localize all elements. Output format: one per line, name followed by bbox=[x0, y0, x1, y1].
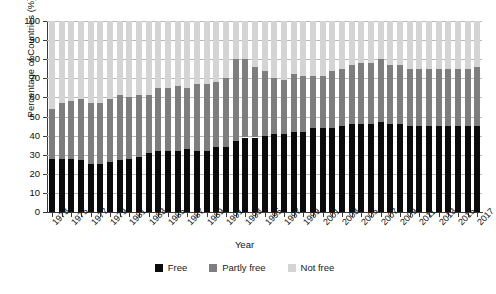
bar-segment-free bbox=[233, 141, 239, 212]
bar-1987[interactable] bbox=[184, 21, 190, 212]
bar-segment-not-free bbox=[310, 21, 316, 76]
bar-1998[interactable] bbox=[291, 21, 297, 212]
bar-1990[interactable] bbox=[213, 21, 219, 212]
bar-1991[interactable] bbox=[223, 21, 229, 212]
bar-segment-free bbox=[320, 128, 326, 212]
bar-segment-free bbox=[358, 124, 364, 212]
bar-segment-free bbox=[175, 151, 181, 212]
bar-segment-not-free bbox=[329, 21, 335, 71]
bar-segment-partly-free bbox=[107, 99, 113, 162]
legend-item-not-free[interactable]: Not free bbox=[288, 262, 335, 273]
bar-2014[interactable] bbox=[445, 21, 451, 212]
bar-1981[interactable] bbox=[126, 21, 132, 212]
bar-segment-free bbox=[445, 126, 451, 212]
bar-segment-partly-free bbox=[155, 88, 161, 151]
bar-1989[interactable] bbox=[204, 21, 210, 212]
bar-segment-not-free bbox=[97, 21, 103, 103]
bar-2015[interactable] bbox=[455, 21, 461, 212]
bar-1995[interactable] bbox=[262, 21, 268, 212]
bar-2009[interactable] bbox=[397, 21, 403, 212]
bar-1983[interactable] bbox=[146, 21, 152, 212]
bar-segment-free bbox=[184, 149, 190, 212]
bar-segment-free bbox=[407, 126, 413, 212]
bar-1993[interactable] bbox=[242, 21, 248, 212]
bar-1974[interactable] bbox=[59, 21, 65, 212]
bar-2001[interactable] bbox=[320, 21, 326, 212]
bar-segment-free bbox=[416, 126, 422, 212]
bar-1999[interactable] bbox=[300, 21, 306, 212]
bar-segment-partly-free bbox=[233, 59, 239, 141]
bar-2017[interactable] bbox=[474, 21, 480, 212]
bar-1982[interactable] bbox=[136, 21, 142, 212]
y-tick-label-50: 50 bbox=[14, 112, 40, 121]
bar-segment-partly-free bbox=[49, 109, 55, 159]
bar-1992[interactable] bbox=[233, 21, 239, 212]
bar-segment-partly-free bbox=[184, 88, 190, 149]
bar-1994[interactable] bbox=[252, 21, 258, 212]
bar-segment-free bbox=[136, 157, 142, 212]
bar-segment-free bbox=[397, 124, 403, 212]
legend-label: Partly free bbox=[222, 262, 265, 273]
bar-2007[interactable] bbox=[378, 21, 384, 212]
bar-2012[interactable] bbox=[426, 21, 432, 212]
bar-segment-not-free bbox=[165, 21, 171, 88]
bar-2008[interactable] bbox=[387, 21, 393, 212]
legend-item-partly-free[interactable]: Partly free bbox=[209, 262, 265, 273]
bar-series-group bbox=[47, 21, 482, 212]
bar-segment-partly-free bbox=[117, 95, 123, 160]
bar-2003[interactable] bbox=[339, 21, 345, 212]
bar-segment-partly-free bbox=[175, 86, 181, 151]
bar-1976[interactable] bbox=[78, 21, 84, 212]
bar-segment-not-free bbox=[455, 21, 461, 69]
bar-segment-partly-free bbox=[252, 67, 258, 138]
bar-1996[interactable] bbox=[271, 21, 277, 212]
bar-1988[interactable] bbox=[194, 21, 200, 212]
bar-segment-not-free bbox=[349, 21, 355, 65]
bar-segment-partly-free bbox=[59, 103, 65, 158]
legend-item-free[interactable]: Free bbox=[155, 262, 188, 273]
bar-segment-not-free bbox=[194, 21, 200, 84]
y-tick-label-100: 100 bbox=[14, 16, 40, 25]
bar-1997[interactable] bbox=[281, 21, 287, 212]
bar-2011[interactable] bbox=[416, 21, 422, 212]
bar-1986[interactable] bbox=[175, 21, 181, 212]
bar-segment-not-free bbox=[223, 21, 229, 78]
bar-segment-not-free bbox=[146, 21, 152, 95]
bar-segment-free bbox=[204, 151, 210, 212]
bar-1984[interactable] bbox=[155, 21, 161, 212]
bar-1985[interactable] bbox=[165, 21, 171, 212]
bar-2016[interactable] bbox=[465, 21, 471, 212]
bar-segment-partly-free bbox=[407, 69, 413, 126]
bar-2005[interactable] bbox=[358, 21, 364, 212]
bar-segment-partly-free bbox=[445, 69, 451, 126]
bar-2002[interactable] bbox=[329, 21, 335, 212]
y-tick-label-60: 60 bbox=[14, 92, 40, 101]
bar-segment-not-free bbox=[378, 21, 384, 59]
bar-segment-free bbox=[310, 128, 316, 212]
bar-segment-partly-free bbox=[68, 101, 74, 158]
bar-segment-not-free bbox=[204, 21, 210, 84]
bar-segment-not-free bbox=[107, 21, 113, 99]
bar-segment-partly-free bbox=[320, 76, 326, 128]
bar-2006[interactable] bbox=[368, 21, 374, 212]
bar-2004[interactable] bbox=[349, 21, 355, 212]
bar-segment-not-free bbox=[213, 21, 219, 82]
bar-segment-free bbox=[465, 126, 471, 212]
bar-1979[interactable] bbox=[107, 21, 113, 212]
bar-segment-free bbox=[252, 138, 258, 212]
bar-segment-partly-free bbox=[416, 69, 422, 126]
bar-segment-not-free bbox=[445, 21, 451, 69]
bar-segment-partly-free bbox=[310, 76, 316, 128]
bar-1973[interactable] bbox=[49, 21, 55, 212]
bar-segment-free bbox=[223, 147, 229, 212]
bar-1978[interactable] bbox=[97, 21, 103, 212]
bar-2010[interactable] bbox=[407, 21, 413, 212]
bar-segment-free bbox=[117, 160, 123, 212]
bar-segment-partly-free bbox=[474, 67, 480, 126]
bar-2013[interactable] bbox=[436, 21, 442, 212]
bar-segment-not-free bbox=[397, 21, 403, 65]
bar-1975[interactable] bbox=[68, 21, 74, 212]
bar-1977[interactable] bbox=[88, 21, 94, 212]
bar-1980[interactable] bbox=[117, 21, 123, 212]
bar-2000[interactable] bbox=[310, 21, 316, 212]
